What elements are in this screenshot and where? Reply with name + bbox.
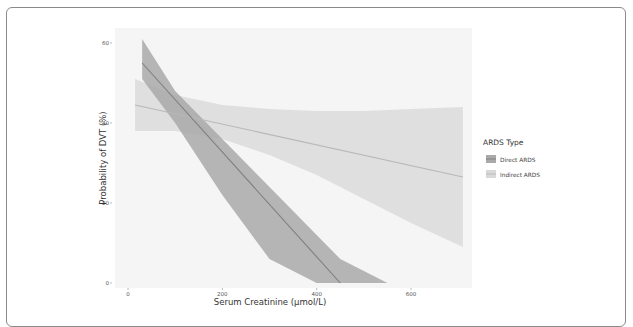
x-tick-label: 0 xyxy=(126,291,130,297)
legend-item-direct-ards: Direct ARDS xyxy=(486,155,536,163)
legend: ARDS Type Direct ARDS Indirect ARDS xyxy=(483,138,540,178)
y-tick-label: 60 xyxy=(102,40,109,46)
legend-label-direct: Direct ARDS xyxy=(500,157,536,163)
y-tick-label: 0 xyxy=(106,280,110,286)
x-axis-title: Serum Creatinine (μmol/L) xyxy=(214,297,326,307)
legend-label-indirect: Indirect ARDS xyxy=(500,172,540,178)
x-axis: 0200400600 xyxy=(126,288,417,297)
legend-item-indirect-ards: Indirect ARDS xyxy=(486,170,540,178)
legend-title: ARDS Type xyxy=(483,138,524,147)
y-axis-title: Probability of DVT (%) xyxy=(98,111,108,204)
x-tick-label: 600 xyxy=(406,291,417,297)
